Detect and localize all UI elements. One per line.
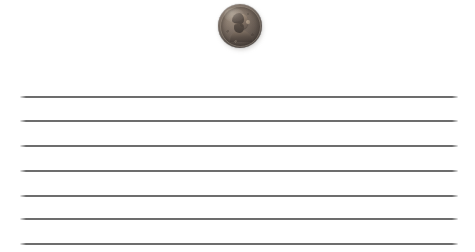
scene-canvas [0, 0, 475, 252]
ruled-line-6 [20, 218, 458, 220]
ruled-line-1 [20, 96, 458, 98]
ruled-line-7 [20, 243, 458, 245]
penny-coin [218, 4, 262, 48]
ruled-line-3 [20, 145, 458, 147]
coin-rim [220, 6, 261, 47]
ruled-line-4 [20, 170, 458, 172]
ruled-line-2 [20, 120, 458, 122]
ruled-line-5 [20, 195, 458, 197]
coin-body [218, 4, 262, 48]
